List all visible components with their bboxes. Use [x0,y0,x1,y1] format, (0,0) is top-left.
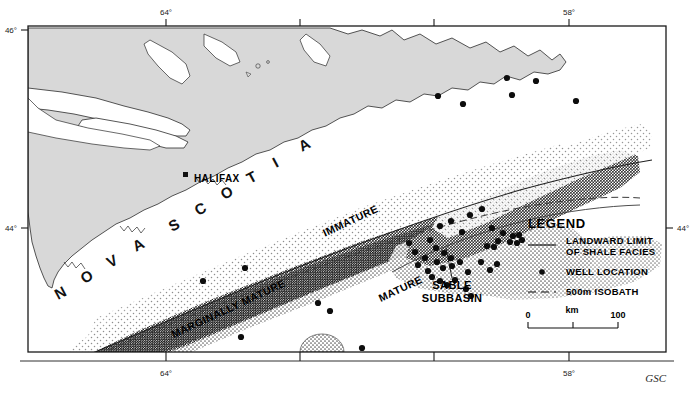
well-location-dot [422,255,428,261]
legend-item-2-line1: 500m ISOBATH [566,286,639,297]
well-location-dot [478,259,484,265]
well-location-dot [465,269,471,275]
well-location-dot [415,262,421,268]
well-location-dot [459,229,465,235]
well-location-dot [437,223,443,229]
sable-subbasin-label-line2: SUBBASIN [422,292,483,304]
left-tick-label-1: 44° [5,224,17,233]
well-location-dot [495,238,501,244]
legend-well-dot-symbol [539,269,545,275]
well-location-dot [489,225,495,231]
map-figure: N O V A S C O T I A HALIFAX IMMATURE MAR… [0,0,697,403]
legend-title: LEGEND [528,216,586,231]
well-location-dot [427,237,433,243]
scale-unit-label: km [565,305,578,315]
gsc-credit-label: GSC [645,372,666,384]
well-location-dot [500,230,506,236]
well-location-dot [412,249,418,255]
well-location-dot [494,261,500,267]
well-location-dot [467,212,473,218]
halifax-label: HALIFAX [194,173,240,184]
well-location-dot [434,259,440,265]
legend-item-0-line1: LANDWARD LIMIT [566,235,653,246]
well-location-dot [406,240,412,246]
legend-item-1-line1: WELL LOCATION [566,266,648,277]
well-location-dot [487,267,493,273]
well-location-dot [533,78,539,84]
map-svg: N O V A S C O T I A HALIFAX IMMATURE MAR… [0,0,697,403]
scale-max-label: 100 [610,310,625,320]
well-location-dot [460,101,466,107]
right-tick-label-0: 44° [677,224,689,233]
well-location-dot [491,244,497,250]
left-tick-label-0: 46° [5,26,17,35]
bottom-tick-label-0: 64° [160,369,172,378]
well-location-dot [327,308,333,314]
well-location-dot [359,345,365,351]
well-location-dot [479,206,485,212]
well-location-dot [433,245,439,251]
well-location-dot [448,218,454,224]
well-location-dot [315,300,321,306]
top-tick-label-0: 64° [160,8,172,17]
well-location-dot [507,239,513,245]
well-location-dot [457,259,463,265]
well-location-dot [484,243,490,249]
well-location-dot [242,265,248,271]
well-location-dot [200,278,206,284]
well-location-dot [509,92,515,98]
well-location-dot [573,98,579,104]
bottom-tick-label-3: 58° [563,369,575,378]
well-location-dot [238,334,244,340]
well-location-dot [435,93,441,99]
scale-min-label: 0 [525,310,530,320]
top-tick-label-3: 58° [563,8,575,17]
well-location-dot [510,233,516,239]
well-location-dot [425,268,431,274]
halifax-city-marker [183,172,188,177]
sable-subbasin-label-line1: SABLE [432,279,471,291]
well-location-dot [504,75,510,81]
well-location-dot [440,265,446,271]
well-location-dot [519,237,525,243]
legend-item-0-line2: OF SHALE FACIES [566,246,655,257]
